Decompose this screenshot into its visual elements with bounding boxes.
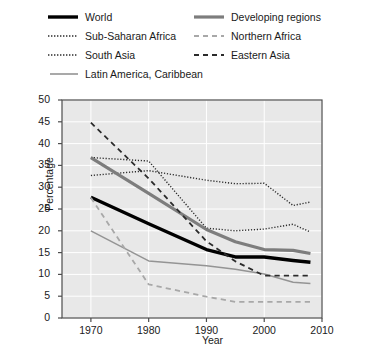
y-tick-label: 20 bbox=[24, 224, 50, 236]
y-tick-label: 35 bbox=[24, 158, 50, 170]
x-tick-label: 2010 bbox=[302, 324, 342, 336]
y-tick-label: 0 bbox=[24, 311, 50, 323]
y-tick-label: 10 bbox=[24, 267, 50, 279]
x-tick-label: 1990 bbox=[186, 324, 226, 336]
x-tick-label: 1970 bbox=[71, 324, 111, 336]
x-tick-label: 2000 bbox=[244, 324, 284, 336]
y-tick-label: 50 bbox=[24, 93, 50, 105]
y-tick-label: 45 bbox=[24, 115, 50, 127]
y-tick-label: 25 bbox=[24, 202, 50, 214]
y-tick-label: 5 bbox=[24, 289, 50, 301]
y-tick-label: 40 bbox=[24, 137, 50, 149]
y-tick-label: 30 bbox=[24, 180, 50, 192]
x-tick-label: 1980 bbox=[129, 324, 169, 336]
chart-plot-area bbox=[0, 0, 372, 360]
chart-figure: World Sub-Saharan Africa South Asia Lati… bbox=[0, 0, 372, 360]
y-tick-label: 15 bbox=[24, 246, 50, 258]
